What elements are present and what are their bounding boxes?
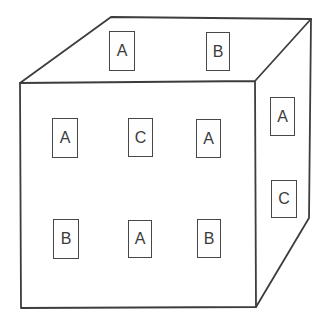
box-diagram: A B A C A B A B A C xyxy=(0,0,325,333)
box-inner-edges xyxy=(20,19,311,307)
front-face-card-6: B xyxy=(197,219,221,258)
front-face-card-2: C xyxy=(128,118,153,157)
right-face-card-2: C xyxy=(271,180,297,218)
front-face-card-3: A xyxy=(196,119,221,158)
front-face-card-4: B xyxy=(53,219,79,259)
front-face-card-5: A xyxy=(128,220,152,258)
top-face-card-2: B xyxy=(206,32,230,71)
box-outer-edges xyxy=(20,17,311,308)
front-face-card-1: A xyxy=(52,118,78,158)
box-outline xyxy=(0,0,325,333)
right-face-card-1: A xyxy=(270,97,295,136)
top-face-card-1: A xyxy=(109,31,135,71)
